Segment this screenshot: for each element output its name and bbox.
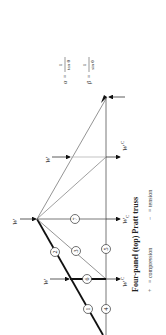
beta-formula: β = 1 sin θ bbox=[82, 57, 95, 85]
wc-sub: C bbox=[120, 140, 125, 144]
top-chord-left bbox=[37, 219, 103, 335]
alpha-numerator: 1 bbox=[58, 63, 63, 66]
legend-minus-text: = tension bbox=[147, 190, 153, 212]
wc-w: W bbox=[121, 280, 129, 287]
member-number: 1 bbox=[85, 308, 91, 311]
member-number: 7 bbox=[72, 218, 78, 221]
alpha-equals: = bbox=[62, 74, 68, 78]
legend-plus-text: = compression bbox=[147, 248, 153, 283]
member-label-1: 1 bbox=[84, 305, 93, 314]
member-label-6: 6 bbox=[83, 275, 92, 284]
member-number: 4 bbox=[103, 308, 109, 311]
wc-label-lower: W C bbox=[120, 276, 129, 287]
alpha-formula: α = 1 tan θ bbox=[58, 57, 71, 84]
wc-label-middle: W C bbox=[121, 214, 130, 224]
member-label-4: 4 bbox=[102, 305, 111, 314]
load-label-apex: W bbox=[11, 218, 19, 225]
load-label-upper: W bbox=[44, 156, 52, 163]
alpha-denominator: tan θ bbox=[66, 60, 71, 70]
pratt-truss-diagram: W W W W C W C W C 1 2 3 4 5 6 7 bbox=[0, 0, 166, 335]
wc-label-upper: W C bbox=[120, 140, 129, 151]
member-number: 6 bbox=[84, 278, 90, 281]
figure-caption: Four-panel (top) Pratt truss bbox=[131, 197, 140, 292]
wc-sub: C bbox=[125, 214, 130, 218]
legend-minus-symbol: − bbox=[147, 216, 153, 220]
member-number: 3 bbox=[73, 250, 79, 253]
wc-sub: C bbox=[120, 276, 125, 280]
legend: + = compression − = tension bbox=[147, 190, 153, 292]
load-label-lower: W bbox=[42, 278, 50, 285]
diagonal-right bbox=[37, 157, 106, 219]
legend-plus-symbol: + bbox=[147, 288, 153, 292]
member-label-3: 3 bbox=[72, 247, 81, 256]
beta-equals: = bbox=[86, 74, 92, 78]
wc-w: W bbox=[121, 144, 129, 151]
beta-numerator: 1 bbox=[82, 63, 87, 66]
member-number: 2 bbox=[52, 251, 58, 254]
beta-symbol: β bbox=[86, 81, 92, 85]
member-label-5: 5 bbox=[102, 245, 111, 254]
member-number: 5 bbox=[103, 248, 109, 251]
beta-denominator: sin θ bbox=[90, 60, 95, 70]
member-label-2: 2 bbox=[51, 248, 60, 257]
member-3 bbox=[37, 219, 106, 279]
member-label-7: 7 bbox=[71, 215, 80, 224]
alpha-symbol: α bbox=[62, 80, 68, 84]
